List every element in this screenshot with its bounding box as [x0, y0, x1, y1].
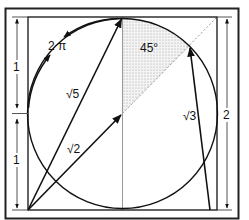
diagram-canvas: 2 π √5 √2 √3 45° 1 1 2: [0, 0, 249, 220]
angle-label: 45°: [140, 41, 158, 55]
two-pi-arrow-lower: [29, 55, 51, 108]
sqrt5-label: √5: [66, 87, 80, 101]
sqrt5-arrow: [28, 19, 122, 210]
sqrt3-arrow: [190, 48, 210, 210]
left-lower-dim-label: 1: [13, 153, 20, 167]
two-pi-label: 2 π: [48, 39, 66, 53]
two-pi-arrow-upper: [64, 19, 118, 37]
right-dim-label: 2: [223, 108, 230, 122]
shaded-sector: [123, 18, 190, 113]
left-upper-dim-label: 1: [13, 60, 20, 74]
sqrt3-label: √3: [183, 109, 197, 123]
sqrt2-label: √2: [67, 142, 81, 156]
